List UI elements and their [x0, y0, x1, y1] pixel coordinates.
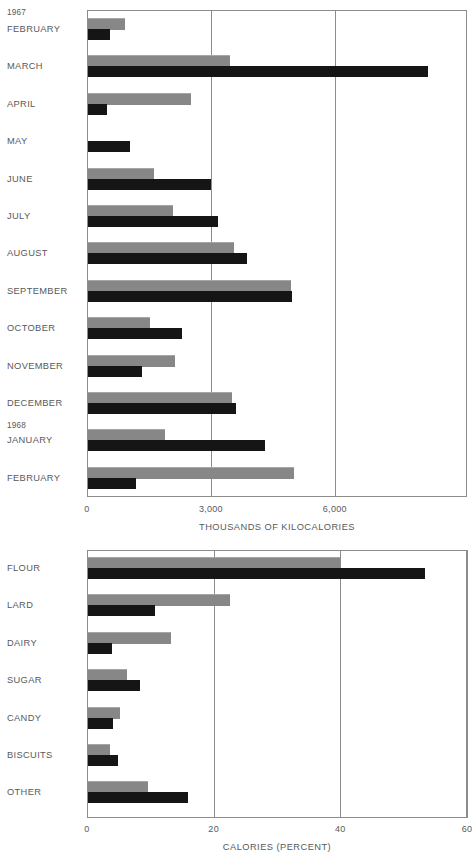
row-label-flour-0: FLOUR [7, 563, 40, 573]
gridline [340, 550, 341, 818]
row-label-lard-1: LARD [7, 600, 33, 610]
kilocalories-axis-title: THOUSANDS OF KILOCALORIES [199, 522, 355, 532]
year-label-1967: 1967 [7, 8, 26, 17]
bar-black [88, 29, 110, 40]
bar-black [88, 605, 155, 616]
x-tick-label: 0 [84, 824, 89, 834]
bar-black [88, 141, 130, 152]
row-label-september-7: SEPTEMBER [7, 286, 68, 296]
bar-black [88, 104, 107, 115]
bar-black [88, 291, 292, 302]
calories-percent-plot-area [87, 550, 467, 818]
row-label-july-5: JULY [7, 211, 30, 221]
row-label-february-12: FEBRUARY [7, 473, 60, 483]
bar-black [88, 179, 211, 190]
gridline [467, 550, 468, 818]
bar-black [88, 216, 218, 227]
bar-black [88, 403, 236, 414]
row-label-october-8: OCTOBER [7, 323, 55, 333]
bar-black [88, 755, 118, 766]
bar-black [88, 792, 188, 803]
x-tick-label: 6,000 [323, 504, 347, 514]
bar-black [88, 66, 428, 77]
gridline [214, 550, 215, 818]
bar-black [88, 440, 265, 451]
row-label-november-9: NOVEMBER [7, 361, 63, 371]
bar-black [88, 643, 112, 654]
bar-black [88, 253, 247, 264]
gridline [335, 10, 336, 497]
row-label-other-6: OTHER [7, 787, 41, 797]
bar-black [88, 680, 140, 691]
row-label-february-0: FEBRUARY [7, 24, 60, 34]
row-label-dairy-2: DAIRY [7, 638, 37, 648]
bar-black [88, 478, 136, 489]
row-label-candy-4: CANDY [7, 713, 41, 723]
bar-black [88, 328, 182, 339]
row-label-december-10: DECEMBER [7, 398, 63, 408]
calories-percent-axis-title: CALORIES (PERCENT) [223, 842, 331, 852]
row-label-march-1: MARCH [7, 61, 43, 71]
x-tick-label: 60 [462, 824, 472, 834]
calories-percent-chart: FLOURLARDDAIRYSUGARCANDYBISCUITSOTHER 02… [0, 545, 469, 858]
row-label-may-3: MAY [7, 136, 28, 146]
bar-black [88, 366, 142, 377]
bar-black [88, 568, 425, 579]
kilocalories-chart: FEBRUARYMARCHAPRILMAYJUNEJULYAUGUSTSEPTE… [0, 0, 469, 540]
x-tick-label: 40 [335, 824, 346, 834]
row-label-january-11: JANUARY [7, 435, 53, 445]
row-label-biscuits-5: BISCUITS [7, 750, 53, 760]
row-label-april-2: APRIL [7, 99, 36, 109]
x-tick-label: 0 [84, 504, 89, 514]
year-label-1968: 1968 [7, 421, 26, 430]
bar-black [88, 718, 113, 729]
row-label-august-6: AUGUST [7, 248, 48, 258]
x-tick-label: 3,000 [199, 504, 223, 514]
row-label-june-4: JUNE [7, 174, 33, 184]
x-tick-label: 20 [208, 824, 219, 834]
row-label-sugar-3: SUGAR [7, 675, 42, 685]
